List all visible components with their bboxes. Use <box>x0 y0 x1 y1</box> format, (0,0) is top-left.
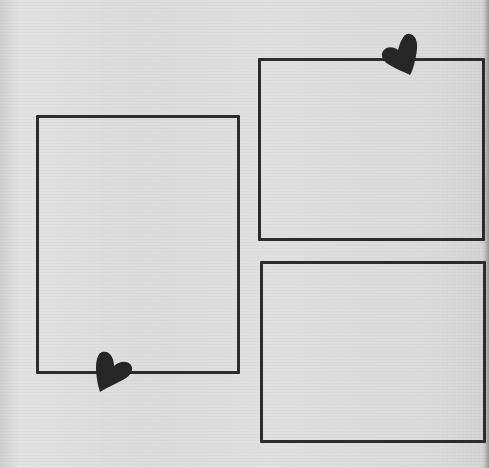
heart-icon <box>92 350 128 386</box>
heart-icon <box>380 32 416 68</box>
photo-frame-left <box>36 115 240 374</box>
photo-frame-bottom-right <box>260 261 486 443</box>
photo-frame-top-right <box>258 58 485 241</box>
